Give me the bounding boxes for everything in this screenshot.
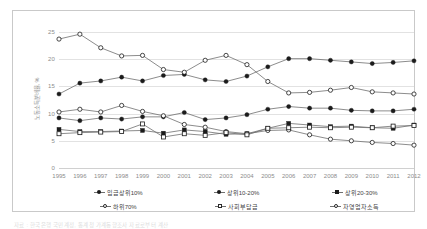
data-point bbox=[370, 140, 374, 144]
data-point bbox=[203, 130, 207, 134]
x-tick-label: 2000 bbox=[157, 173, 170, 179]
gridline bbox=[59, 168, 414, 169]
data-point bbox=[78, 81, 82, 85]
legend-marker-icon bbox=[103, 204, 107, 208]
figure-source-note: 자료 : 한국은행 국민계정, 통계청 가계동향조사 자료로부터 계산 bbox=[14, 221, 168, 229]
data-point bbox=[370, 90, 374, 94]
data-point bbox=[349, 125, 353, 129]
x-tick-label: 1999 bbox=[136, 173, 149, 179]
data-point bbox=[161, 131, 165, 135]
y-tick-label: 25 bbox=[48, 29, 55, 35]
x-tick-label: 2005 bbox=[261, 173, 274, 179]
series-line bbox=[59, 105, 414, 145]
data-point bbox=[391, 91, 395, 95]
data-point bbox=[245, 74, 249, 78]
data-point bbox=[57, 127, 61, 131]
series-하위70% bbox=[57, 103, 416, 147]
legend-item-inner: 상위20-30% bbox=[332, 188, 378, 197]
x-tick-label: 2007 bbox=[303, 173, 316, 179]
series-line bbox=[59, 59, 414, 94]
data-point bbox=[182, 128, 186, 132]
data-point bbox=[370, 126, 374, 130]
data-point bbox=[120, 75, 124, 79]
legend-item-inner: 상위10-20% bbox=[214, 188, 260, 197]
series-사회부담금 bbox=[57, 122, 416, 139]
data-point bbox=[245, 113, 249, 117]
data-point bbox=[328, 126, 332, 130]
legend-label: 상위10-20% bbox=[227, 188, 260, 197]
legend-label: 하위70% bbox=[113, 202, 137, 211]
series-line bbox=[59, 124, 414, 137]
plot-area: 0510152025 19951996199719981999200020012… bbox=[59, 32, 414, 168]
x-tick-label: 2002 bbox=[198, 173, 211, 179]
data-point bbox=[203, 78, 207, 82]
data-point bbox=[287, 126, 291, 130]
x-tick-label: 2011 bbox=[387, 173, 400, 179]
data-point bbox=[328, 137, 332, 141]
x-tick-label: 2008 bbox=[324, 173, 337, 179]
data-point bbox=[266, 107, 270, 111]
data-point bbox=[99, 79, 103, 83]
legend-label: 자영업자소득 bbox=[343, 202, 379, 211]
legend-item-inner: 사회부담금 bbox=[215, 202, 258, 211]
data-point bbox=[307, 90, 311, 94]
data-point bbox=[266, 79, 270, 83]
data-point bbox=[328, 58, 332, 62]
data-point bbox=[57, 132, 61, 136]
data-point bbox=[57, 92, 61, 96]
data-point bbox=[203, 133, 207, 137]
data-point bbox=[99, 46, 103, 50]
legend-item-상위10-20%[interactable]: 상위10-20% bbox=[177, 185, 295, 199]
legend-item-사회부담금[interactable]: 사회부담금 bbox=[177, 199, 295, 213]
data-point bbox=[266, 126, 270, 130]
data-point bbox=[120, 117, 124, 121]
data-point bbox=[245, 63, 249, 67]
x-tick-label: 1998 bbox=[115, 173, 128, 179]
data-point bbox=[78, 107, 82, 111]
legend-item-inner: 임금상위10% bbox=[94, 188, 143, 197]
data-point bbox=[307, 133, 311, 137]
data-point bbox=[161, 73, 165, 77]
y-tick-label: 15 bbox=[48, 83, 55, 89]
data-point bbox=[349, 60, 353, 64]
data-point bbox=[349, 108, 353, 112]
data-point bbox=[412, 92, 416, 96]
data-point bbox=[182, 122, 186, 126]
data-point bbox=[140, 115, 144, 119]
legend-item-상위20-30%[interactable]: 상위20-30% bbox=[296, 185, 414, 199]
data-point bbox=[78, 32, 82, 36]
legend-label: 상위20-30% bbox=[345, 188, 378, 197]
data-point bbox=[412, 107, 416, 111]
x-tick-label: 2004 bbox=[240, 173, 253, 179]
legend-swatch bbox=[215, 206, 226, 207]
data-point bbox=[161, 67, 165, 71]
chart-legend: 임금상위10%상위10-20%상위20-30%하위70%사회부담금자영업자소득 bbox=[59, 185, 414, 213]
data-point bbox=[370, 109, 374, 113]
x-tick-label: 1997 bbox=[94, 173, 107, 179]
data-point bbox=[99, 110, 103, 114]
data-point bbox=[99, 116, 103, 120]
x-tick-label: 2012 bbox=[407, 173, 420, 179]
data-point bbox=[266, 65, 270, 69]
data-point bbox=[308, 125, 312, 129]
data-point bbox=[182, 110, 186, 114]
data-point bbox=[328, 88, 332, 92]
legend-item-임금상위10%[interactable]: 임금상위10% bbox=[59, 185, 177, 199]
data-point bbox=[287, 91, 291, 95]
data-point bbox=[182, 132, 186, 136]
data-point bbox=[391, 60, 395, 64]
data-point bbox=[203, 125, 207, 129]
data-point bbox=[224, 79, 228, 83]
data-point bbox=[412, 124, 416, 128]
data-point bbox=[57, 110, 61, 114]
series-임금상위10% bbox=[57, 57, 416, 97]
data-point bbox=[161, 135, 165, 139]
data-point bbox=[140, 53, 144, 57]
x-tick-label: 2003 bbox=[219, 173, 232, 179]
data-point bbox=[245, 133, 249, 137]
legend-marker-icon bbox=[217, 190, 221, 194]
legend-item-하위70%[interactable]: 하위70% bbox=[59, 199, 177, 213]
legend-item-자영업자소득[interactable]: 자영업자소득 bbox=[296, 199, 414, 213]
data-point bbox=[224, 116, 228, 120]
data-point bbox=[120, 54, 124, 58]
